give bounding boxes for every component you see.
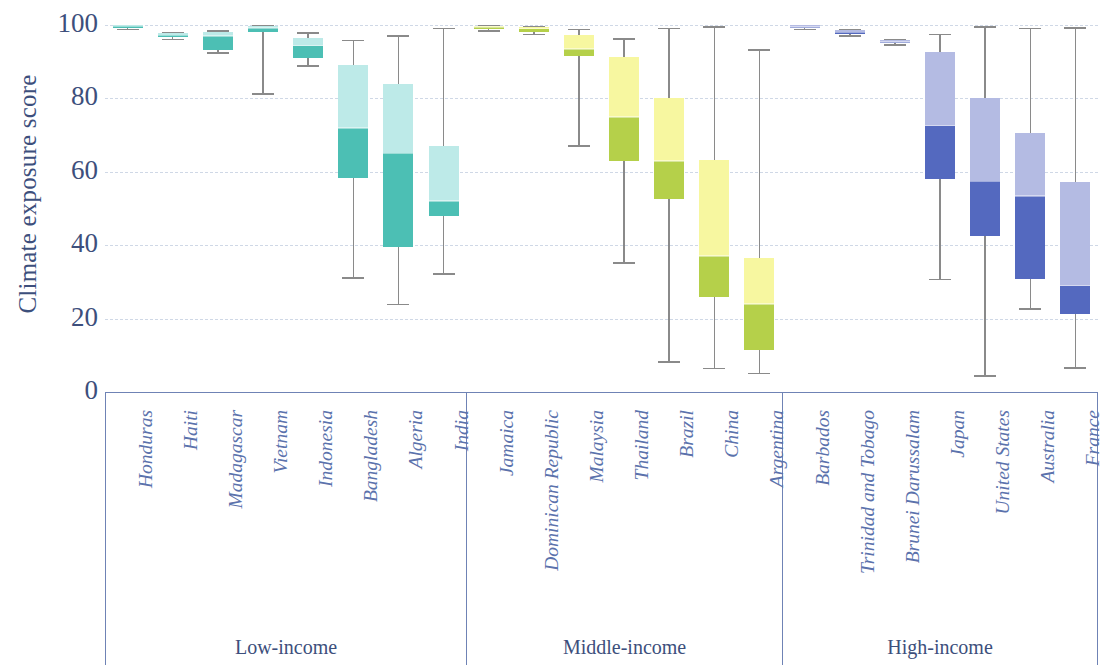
country-label-algeria: Algeria [405, 410, 427, 469]
country-label-bangladesh: Bangladesh [360, 410, 382, 502]
box-lower-quartile [1060, 286, 1090, 315]
group-panels: Low-incomeMiddle-incomeHigh-incomeHondur… [105, 392, 1098, 665]
whisker-lower [443, 216, 445, 273]
gridline-20 [105, 319, 1098, 320]
country-label-trinidad-and-tobago: Trinidad and Tobago [857, 410, 879, 574]
median-line [609, 116, 639, 118]
whisker-cap-lower [1064, 367, 1086, 369]
whisker-upper [939, 34, 941, 52]
median-line [790, 26, 820, 28]
panel-title-low-income: Low-income [106, 636, 466, 659]
country-label-france: France [1082, 410, 1104, 466]
whisker-upper [353, 40, 355, 66]
box-lower-quartile [609, 117, 639, 161]
whisker-upper [759, 49, 761, 258]
whisker-lower [1075, 314, 1077, 367]
box-upper-quartile [429, 146, 459, 201]
whisker-lower [307, 58, 309, 65]
whisker-lower [984, 236, 986, 375]
whisker-cap-upper [703, 26, 725, 28]
country-label-jamaica: Jamaica [496, 410, 518, 476]
y-tick-100: 100 [30, 10, 98, 37]
y-tick-80: 80 [30, 83, 98, 110]
whisker-cap-lower [207, 52, 229, 54]
median-line [744, 303, 774, 305]
whisker-cap-lower [929, 279, 951, 281]
whisker-cap-lower [658, 361, 680, 363]
whisker-cap-upper [1064, 27, 1086, 29]
whisker-upper [668, 28, 670, 98]
whisker-cap-lower [839, 35, 861, 37]
whisker-cap-lower [1019, 308, 1041, 310]
median-line [835, 32, 865, 34]
box-lower-quartile [293, 46, 323, 58]
country-label-thailand: Thailand [631, 410, 653, 480]
whisker-cap-upper [568, 29, 590, 31]
box-upper-quartile [609, 57, 639, 116]
median-line [880, 41, 910, 43]
median-line [564, 48, 594, 50]
whisker-cap-lower [478, 30, 500, 32]
median-line [1060, 285, 1090, 287]
median-line [699, 255, 729, 257]
y-tick-40: 40 [30, 230, 98, 257]
whisker-lower [1030, 279, 1032, 308]
country-label-dominican-republic: Dominican Republic [541, 410, 563, 571]
box-upper-quartile [970, 98, 1000, 182]
box-lower-quartile [203, 36, 233, 50]
whisker-cap-upper [1019, 28, 1041, 30]
country-label-united-states: United States [992, 410, 1014, 515]
median-line [383, 153, 413, 155]
box-lower-quartile [744, 304, 774, 350]
country-label-haiti: Haiti [180, 410, 202, 450]
box-lower-quartile [925, 126, 955, 180]
country-label-australia: Australia [1037, 410, 1059, 483]
country-label-madagascar: Madagascar [225, 410, 247, 509]
median-line [158, 35, 188, 37]
box-upper-quartile [1015, 133, 1045, 196]
whisker-cap-upper [297, 32, 319, 34]
median-line [293, 45, 323, 47]
whisker-cap-lower [748, 373, 770, 375]
median-line [113, 26, 143, 28]
whisker-cap-lower [162, 39, 184, 41]
box-lower-quartile [383, 153, 413, 246]
country-label-malaysia: Malaysia [586, 410, 608, 483]
country-label-vietnam: Vietnam [270, 410, 292, 474]
box-upper-quartile [699, 160, 729, 256]
whisker-cap-upper [974, 26, 996, 28]
y-tick-0: 0 [30, 377, 98, 404]
whisker-lower [398, 247, 400, 304]
whisker-cap-upper [929, 34, 951, 36]
whisker-cap-upper [613, 38, 635, 40]
country-label-brunei-darussalam: Brunei Darussalam [902, 410, 924, 563]
country-label-brazil: Brazil [676, 410, 698, 458]
median-line [519, 28, 549, 30]
box-lower-quartile [429, 201, 459, 216]
box-lower-quartile [564, 49, 594, 56]
box-upper-quartile [338, 65, 368, 127]
whisker-cap-lower [568, 145, 590, 147]
median-line [248, 27, 278, 29]
whisker-cap-lower [974, 375, 996, 377]
whisker-upper [443, 28, 445, 146]
whisker-upper [623, 38, 625, 57]
y-tick-60: 60 [30, 157, 98, 184]
box-upper-quartile [744, 258, 774, 304]
median-line [429, 200, 459, 202]
median-line [203, 35, 233, 37]
whisker-lower [668, 199, 670, 361]
whisker-lower [578, 56, 580, 146]
box-upper-quartile [1060, 182, 1090, 285]
whisker-upper [714, 26, 716, 160]
country-label-honduras: Honduras [135, 410, 157, 488]
whisker-lower [759, 350, 761, 373]
box-upper-quartile [383, 84, 413, 154]
median-line [654, 160, 684, 162]
whisker-cap-lower [387, 304, 409, 306]
y-axis-tick-labels: 100806040200 [20, 0, 98, 400]
country-label-indonesia: Indonesia [315, 410, 337, 487]
box-upper-quartile [925, 52, 955, 125]
whisker-upper [984, 26, 986, 97]
median-line [925, 125, 955, 127]
